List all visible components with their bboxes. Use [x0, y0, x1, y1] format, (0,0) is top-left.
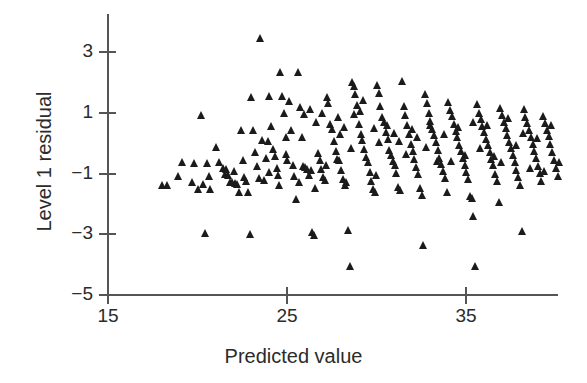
data-point [412, 163, 420, 171]
data-point [344, 226, 352, 234]
data-point [477, 115, 485, 123]
data-point [462, 168, 470, 176]
data-point [233, 180, 241, 188]
data-point [410, 155, 418, 163]
data-point [242, 177, 250, 185]
data-point [348, 78, 356, 86]
data-point [316, 156, 324, 164]
y-tick-label-wrap-1: 1 [55, 102, 93, 122]
data-point [539, 112, 547, 120]
y-tick-3 [99, 233, 116, 235]
data-point [298, 133, 306, 141]
data-point [547, 121, 555, 129]
data-point [466, 192, 474, 200]
data-point [519, 129, 527, 137]
data-point [537, 177, 545, 185]
data-point [321, 176, 329, 184]
data-point [414, 170, 422, 178]
data-point [489, 161, 497, 169]
y-axis-label: Level 1 residual [33, 32, 56, 292]
data-point [310, 231, 318, 239]
data-point [367, 177, 375, 185]
data-point [273, 164, 281, 172]
data-point [342, 178, 350, 186]
data-point [545, 132, 553, 140]
data-point [421, 90, 429, 98]
data-point [469, 212, 477, 220]
data-point [526, 164, 534, 172]
data-point [516, 181, 524, 189]
data-point [540, 167, 548, 175]
data-point [197, 111, 205, 119]
data-point [319, 173, 327, 181]
data-point [491, 170, 499, 178]
data-point [262, 154, 270, 162]
data-point [335, 156, 343, 164]
data-point [435, 154, 443, 162]
data-point [541, 119, 549, 127]
data-point [199, 180, 207, 188]
data-point [369, 185, 377, 193]
data-point [371, 188, 379, 196]
data-point [337, 166, 345, 174]
data-point [521, 113, 529, 121]
data-point [446, 106, 454, 114]
data-point [484, 141, 492, 149]
data-point [370, 124, 378, 132]
data-point [271, 152, 279, 160]
data-point [296, 103, 304, 111]
data-point [283, 156, 291, 164]
data-point [532, 154, 540, 162]
data-point [305, 171, 313, 179]
data-point [520, 105, 528, 113]
data-point [215, 158, 223, 166]
data-point [355, 120, 363, 128]
data-point [384, 135, 392, 143]
data-point [418, 191, 426, 199]
data-point [448, 112, 456, 120]
data-point [495, 198, 503, 206]
data-point [401, 111, 409, 119]
data-point [546, 140, 554, 148]
data-point [512, 166, 520, 174]
data-point [364, 158, 372, 166]
data-point [459, 154, 467, 162]
data-point [518, 227, 526, 235]
data-point [346, 262, 354, 270]
x-tick-label-2: 35 [443, 306, 489, 325]
data-point [301, 163, 309, 171]
data-point [340, 123, 348, 131]
data-point [468, 194, 476, 202]
data-point [504, 114, 512, 122]
data-point [278, 92, 286, 100]
data-point [231, 179, 239, 187]
data-point [476, 144, 484, 152]
data-point [324, 99, 332, 107]
x-tick-2 [465, 287, 467, 304]
data-point [178, 158, 186, 166]
data-point [511, 158, 519, 166]
data-point [318, 109, 326, 117]
data-point [249, 126, 257, 134]
data-point [228, 178, 236, 186]
data-point [274, 171, 282, 179]
data-point [493, 177, 501, 185]
data-point [380, 118, 388, 126]
data-point [226, 178, 234, 186]
y-tick-label-1: 1 [59, 102, 93, 121]
data-point [457, 147, 465, 155]
data-point [483, 121, 491, 129]
data-point [469, 118, 477, 126]
data-point [290, 172, 298, 180]
data-point [453, 133, 461, 141]
data-point [222, 165, 230, 173]
data-point [527, 133, 535, 141]
data-point [425, 109, 433, 117]
data-point [158, 181, 166, 189]
data-point [430, 131, 438, 139]
data-point [311, 184, 319, 192]
data-point [385, 146, 393, 154]
data-point [514, 173, 522, 181]
data-point [308, 228, 316, 236]
data-point [256, 34, 264, 42]
